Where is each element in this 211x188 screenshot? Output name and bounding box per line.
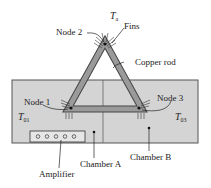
t01-subscript: 01 xyxy=(24,117,30,123)
chamber-b-dot xyxy=(148,127,151,130)
ambient-temp-subscript: a xyxy=(116,16,119,22)
node3-dot xyxy=(137,106,140,109)
node2-label: Node 2 xyxy=(56,28,82,37)
node1-dot xyxy=(69,106,72,109)
t03-subscript: 03 xyxy=(181,117,187,123)
copper-rod-label: Copper rod xyxy=(135,58,176,67)
chamber-a-label: Chamber A xyxy=(80,160,121,169)
t01-label: T01 xyxy=(18,112,30,123)
copper-rod-triangle-diagram: Ta Node 2 Fins Copper rod Node 1 T01 Nod… xyxy=(0,0,211,188)
node1-label: Node 1 xyxy=(24,98,50,107)
node2-dot xyxy=(103,42,106,45)
chamber-b-label: Chamber B xyxy=(130,153,171,162)
t03-label: T03 xyxy=(175,112,187,123)
fins-label: Fins xyxy=(124,22,140,31)
chamber-a-dot xyxy=(93,131,96,134)
ambient-temp-label: Ta xyxy=(110,11,118,22)
amplifier-label: Amplifier xyxy=(39,170,75,179)
node3-label: Node 3 xyxy=(157,94,183,103)
